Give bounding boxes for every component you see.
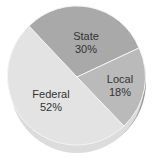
label-federal-pct: 52% — [28, 101, 74, 114]
label-local: Local 18% — [100, 73, 140, 99]
label-federal: Federal 52% — [28, 88, 74, 114]
label-local-name: Local — [100, 73, 140, 86]
label-state-pct: 30% — [66, 43, 106, 56]
label-state: State 30% — [66, 30, 106, 56]
label-local-pct: 18% — [100, 86, 140, 99]
pie-chart: State 30% Local 18% Federal 52% — [0, 0, 156, 159]
label-state-name: State — [66, 30, 106, 43]
label-federal-name: Federal — [28, 88, 74, 101]
